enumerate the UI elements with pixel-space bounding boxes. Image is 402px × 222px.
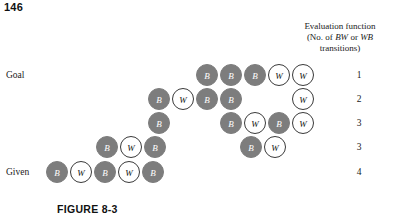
token-black-r3c6: B xyxy=(268,112,290,134)
token-black-r1c1: B xyxy=(196,64,218,86)
eval-header-line-2-prefix: (No. of xyxy=(307,32,335,42)
figure-page: 146 Evaluation function (No. of BW or WB… xyxy=(0,0,402,222)
token-gap-r2c5 xyxy=(244,88,266,110)
token-black-r2c3: B xyxy=(196,88,218,110)
token-gap-r2c6 xyxy=(268,88,290,110)
eval-header-bw-italic: BW xyxy=(335,32,348,42)
token-black-r2c4: B xyxy=(220,88,242,110)
eval-header-line-1: Evaluation function xyxy=(284,21,396,32)
eval-header-line-2-mid: or xyxy=(348,32,360,42)
token-white-r5c2: W xyxy=(70,161,92,183)
evaluation-function-header: Evaluation function (No. of BW or WB tra… xyxy=(284,21,396,55)
token-white-r2c7: W xyxy=(292,88,314,110)
token-white-r5c4: W xyxy=(118,161,140,183)
token-white-r1c4: W xyxy=(268,64,290,86)
token-gap-r4c5 xyxy=(192,136,214,158)
token-gap-r3c2 xyxy=(172,112,194,134)
token-black-r4c7: B xyxy=(240,136,262,158)
token-white-r4c8: W xyxy=(264,136,286,158)
token-white-r3c7: W xyxy=(292,112,314,134)
token-black-r5c1: B xyxy=(46,161,68,183)
token-black-r3c1: B xyxy=(148,112,170,134)
token-black-r1c2: B xyxy=(220,64,242,86)
eval-header-line-2: (No. of BW or WB xyxy=(284,32,396,43)
token-gap-r4c4 xyxy=(168,136,190,158)
token-black-r5c3: B xyxy=(94,161,116,183)
figure-caption: FIGURE 8-3 xyxy=(57,203,118,215)
page-number: 146 xyxy=(4,1,23,13)
token-white-r2c2: W xyxy=(172,88,194,110)
token-white-r4c2: W xyxy=(120,136,142,158)
token-white-r1c5: W xyxy=(292,64,314,86)
eval-value-row-3: 3 xyxy=(352,112,366,134)
eval-header-wb-italic: WB xyxy=(360,32,373,42)
eval-header-line-3: transitions) xyxy=(284,43,396,54)
token-black-r5c5: B xyxy=(142,161,164,183)
token-gap-r4c6 xyxy=(216,136,238,158)
eval-value-row-2: 2 xyxy=(352,88,366,110)
token-gap-r3c3 xyxy=(196,112,218,134)
row-label-goal: Goal xyxy=(6,70,24,80)
token-black-r4c3: B xyxy=(144,136,166,158)
eval-value-row-5: 4 xyxy=(352,161,366,183)
token-black-r4c1: B xyxy=(96,136,118,158)
eval-value-row-1: 1 xyxy=(352,64,366,86)
eval-value-row-4: 3 xyxy=(352,136,366,158)
token-black-r2c1: B xyxy=(148,88,170,110)
row-label-given: Given xyxy=(6,167,29,177)
token-black-r1c3: B xyxy=(244,64,266,86)
token-black-r3c4: B xyxy=(220,112,242,134)
token-white-r3c5: W xyxy=(244,112,266,134)
